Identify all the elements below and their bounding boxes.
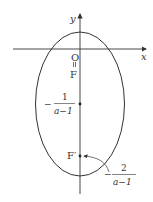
focus-f-prime-point [79, 155, 82, 158]
x-axis-label: x [141, 51, 147, 62]
focus-f-prime-label: F′ [67, 150, 77, 161]
center-label: − 1 a−1 [44, 92, 75, 116]
annotation-label: − 2 a−1 [104, 163, 136, 187]
center-point [79, 103, 82, 106]
ellipse-diagram: y x O F − 1 a−1 F′ − 2 a−1 [0, 0, 153, 202]
svg-text:a−1: a−1 [54, 106, 73, 116]
svg-text:−: − [104, 169, 112, 179]
svg-text:2: 2 [121, 163, 127, 173]
svg-text:−: − [44, 99, 52, 109]
svg-text:1: 1 [62, 92, 68, 102]
origin-label: O [71, 52, 79, 63]
y-axis-label: y [69, 13, 76, 24]
svg-text:a−1: a−1 [113, 177, 132, 187]
focus-f-label: F [70, 69, 77, 80]
